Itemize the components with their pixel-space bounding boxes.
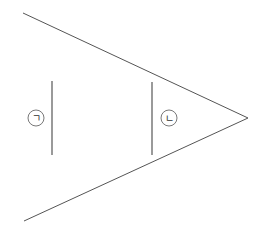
- label-b: ㄴ: [161, 110, 177, 126]
- lower-ray: [24, 118, 248, 221]
- label-b-text: ㄴ: [165, 113, 174, 124]
- label-a: ㄱ: [28, 110, 44, 126]
- label-a-text: ㄱ: [32, 113, 41, 124]
- convergent-lines-diagram: ㄱ ㄴ: [0, 0, 267, 231]
- upper-ray: [23, 13, 248, 118]
